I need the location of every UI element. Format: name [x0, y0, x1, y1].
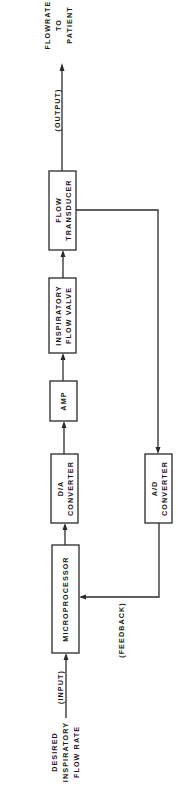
- block-flow-transducer: FLOW TRANSDUCER: [49, 171, 76, 250]
- feedback-line-to-ad: [76, 210, 158, 452]
- output-dest-line3: PATIENT: [65, 6, 74, 43]
- block-valve-line2: FLOW VALVE: [64, 287, 73, 344]
- input-label: (INPUT): [56, 670, 65, 704]
- feedback-line-to-mp: [81, 523, 159, 597]
- arrowhead-icon: [62, 421, 67, 428]
- output-dest-line1: FLOWRATE: [43, 1, 52, 50]
- block-amp-label: AMP: [59, 391, 68, 410]
- block-ad-line1: A/D: [150, 481, 159, 497]
- arrowhead-icon: [61, 353, 66, 360]
- input-source-line1: DESIRED: [50, 732, 59, 772]
- block-valve-line1: INSPIRATORY: [54, 285, 63, 345]
- block-flow-transducer-line1: FLOW: [54, 197, 63, 223]
- output-arrowhead-icon: [60, 63, 65, 71]
- block-da-line2: CONVERTER: [66, 461, 75, 516]
- input-arrowhead-icon: [64, 653, 69, 660]
- arrowhead-icon: [156, 447, 161, 454]
- arrowhead-icon: [61, 250, 66, 257]
- feedback-arrowhead-icon: [79, 595, 86, 600]
- input-source-line2: INSPIRATORY: [61, 722, 70, 782]
- output-dest-line2: TO: [54, 19, 63, 31]
- block-diagram: FLOW TRANSDUCER INSPIRATORY FLOW VALVE A…: [0, 0, 178, 787]
- block-inspiratory-flow-valve: INSPIRATORY FLOW VALVE: [49, 278, 76, 353]
- arrowhead-icon: [63, 523, 68, 530]
- block-da-converter: D/A CONVERTER: [51, 454, 78, 523]
- block-microprocessor: MICROPROCESSOR: [52, 545, 79, 653]
- block-flow-transducer-line2: TRANSDUCER: [64, 179, 73, 240]
- block-amp: AMP: [50, 381, 77, 421]
- block-da-line1: D/A: [56, 481, 65, 497]
- feedback-label: (FEEDBACK): [117, 602, 126, 658]
- block-ad-line2: CONVERTER: [160, 461, 169, 516]
- block-ad-converter: A/D CONVERTER: [145, 454, 172, 523]
- input-source-line3: FLOW RATE: [72, 726, 81, 778]
- output-label: (OUTPUT): [53, 88, 62, 131]
- block-microprocessor-label: MICROPROCESSOR: [61, 556, 70, 641]
